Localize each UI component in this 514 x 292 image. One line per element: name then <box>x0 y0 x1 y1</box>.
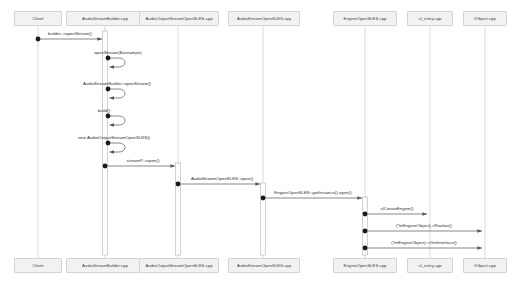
message-label-m5: new AudioOutputStreamOpenSLES() <box>78 135 150 140</box>
message-m9 <box>363 212 427 217</box>
participant-header-client[interactable]: Client <box>14 11 62 26</box>
participant-header-engine[interactable]: EngineOpenSLES.cpp <box>333 11 397 26</box>
participant-footer-stream[interactable]: AudioStreamOpenSLES.cpp <box>228 258 300 273</box>
message-label-m3: AudioStreamBuilder::openStream() <box>83 81 151 86</box>
message-m7 <box>176 182 260 187</box>
message-label-m10: (*mEngineObject)->Realize() <box>396 223 452 228</box>
message-origin-dot-m11 <box>363 246 368 251</box>
self-call-path-m5 <box>108 143 125 152</box>
activation-bar-stream <box>261 183 266 255</box>
participant-label: sl_entry.cpp <box>419 263 442 268</box>
message-label-m4: build() <box>98 108 110 113</box>
participant-label: sl_entry.cpp <box>419 16 442 21</box>
participant-footer-client[interactable]: Client <box>14 258 62 273</box>
message-m3 <box>106 87 125 98</box>
self-call-path-m2 <box>108 58 125 67</box>
participant-label: Client <box>32 16 43 21</box>
activation-bar-outstream <box>176 163 181 255</box>
message-origin-dot-m4 <box>106 114 111 119</box>
message-m4 <box>106 114 125 125</box>
message-origin-dot-m5 <box>106 141 111 146</box>
participant-footer-slentry[interactable]: sl_entry.cpp <box>407 258 453 273</box>
message-m8 <box>261 196 362 201</box>
participant-label: AudioOutputStreamOpenSLES.cpp <box>145 263 212 268</box>
participant-footer-engine[interactable]: EngineOpenSLES.cpp <box>333 258 397 273</box>
self-call-path-m4 <box>108 116 125 125</box>
participant-header-iobject[interactable]: IObject.cpp <box>463 11 507 26</box>
message-label-m1: builder->openStream() <box>48 31 92 36</box>
message-origin-dot-m1 <box>36 37 41 42</box>
participant-label: AudioStreamBuilder.cpp <box>82 16 128 21</box>
participant-header-builder[interactable]: AudioStreamBuilder.cpp <box>66 11 144 26</box>
message-origin-dot-m3 <box>106 87 111 92</box>
participant-header-slentry[interactable]: sl_entry.cpp <box>407 11 453 26</box>
message-m10 <box>363 229 482 234</box>
participant-footer-builder[interactable]: AudioStreamBuilder.cpp <box>66 258 144 273</box>
participant-label: Client <box>32 263 43 268</box>
participant-label: IObject.cpp <box>474 263 496 268</box>
message-label-m6: streamP->open() <box>127 158 160 163</box>
participant-header-outstream[interactable]: AudioOutputStreamOpenSLES.cpp <box>139 11 219 26</box>
participant-label: EngineOpenSLES.cpp <box>344 16 387 21</box>
message-origin-dot-m9 <box>363 212 368 217</box>
participant-label: AudioStreamBuilder.cpp <box>82 263 128 268</box>
diagram-vector-layer <box>0 0 514 292</box>
participant-label: AudioOutputStreamOpenSLES.cpp <box>145 16 212 21</box>
participant-label: AudioStreamOpenSLES.cpp <box>237 263 291 268</box>
self-call-path-m3 <box>108 89 125 98</box>
participant-label: AudioStreamOpenSLES.cpp <box>237 16 291 21</box>
participant-label: IObject.cpp <box>474 16 496 21</box>
message-label-m7: AudioStreamOpenSLES::open() <box>191 176 253 181</box>
message-origin-dot-m2 <box>106 56 111 61</box>
message-m1 <box>36 37 102 42</box>
message-m6 <box>103 164 175 169</box>
message-m11 <box>363 246 482 251</box>
participant-footer-outstream[interactable]: AudioOutputStreamOpenSLES.cpp <box>139 258 219 273</box>
message-origin-dot-m7 <box>176 182 181 187</box>
participant-header-stream[interactable]: AudioStreamOpenSLES.cpp <box>228 11 300 26</box>
message-m5 <box>106 141 125 152</box>
participant-footer-iobject[interactable]: IObject.cpp <box>463 258 507 273</box>
message-label-m11: (*mEngineObject)->GetInterface() <box>391 240 457 245</box>
sequence-diagram-canvas: ClientAudioStreamBuilder.cppAudioOutputS… <box>0 0 514 292</box>
message-m2 <box>106 56 125 67</box>
message-label-m9: slCreateEngine() <box>381 206 414 211</box>
message-origin-dot-m10 <box>363 229 368 234</box>
participant-label: EngineOpenSLES.cpp <box>344 263 387 268</box>
message-origin-dot-m8 <box>261 196 266 201</box>
message-label-m8: EngineOpenSLES::getInstance().open() <box>274 190 351 195</box>
message-label-m2: openStream($streamptr) <box>94 50 142 55</box>
message-origin-dot-m6 <box>103 164 108 169</box>
